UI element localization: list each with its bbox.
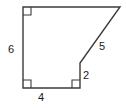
polygon-diagram-svg: [0, 0, 126, 108]
side-label-bottom: 4: [38, 92, 44, 103]
side-label-notch: 2: [83, 70, 89, 81]
geometry-figure: 6 4 2 5: [0, 0, 126, 108]
side-label-slant: 5: [99, 41, 105, 52]
polygon-outline: [23, 7, 120, 88]
side-label-left: 6: [8, 44, 14, 55]
